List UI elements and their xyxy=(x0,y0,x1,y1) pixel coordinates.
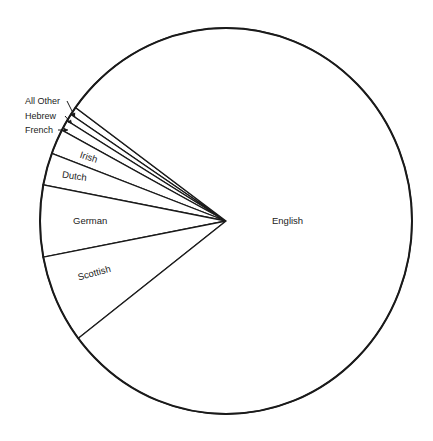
slice-label-english: English xyxy=(272,215,303,226)
pie-chart: All OtherHebrewFrenchIrishDutchGermanSco… xyxy=(0,0,433,441)
slice-label-all-other: All Other xyxy=(25,96,60,106)
slice-label-hebrew: Hebrew xyxy=(25,111,57,121)
slice-label-french: French xyxy=(25,125,53,135)
slice-label-german: German xyxy=(73,215,107,226)
